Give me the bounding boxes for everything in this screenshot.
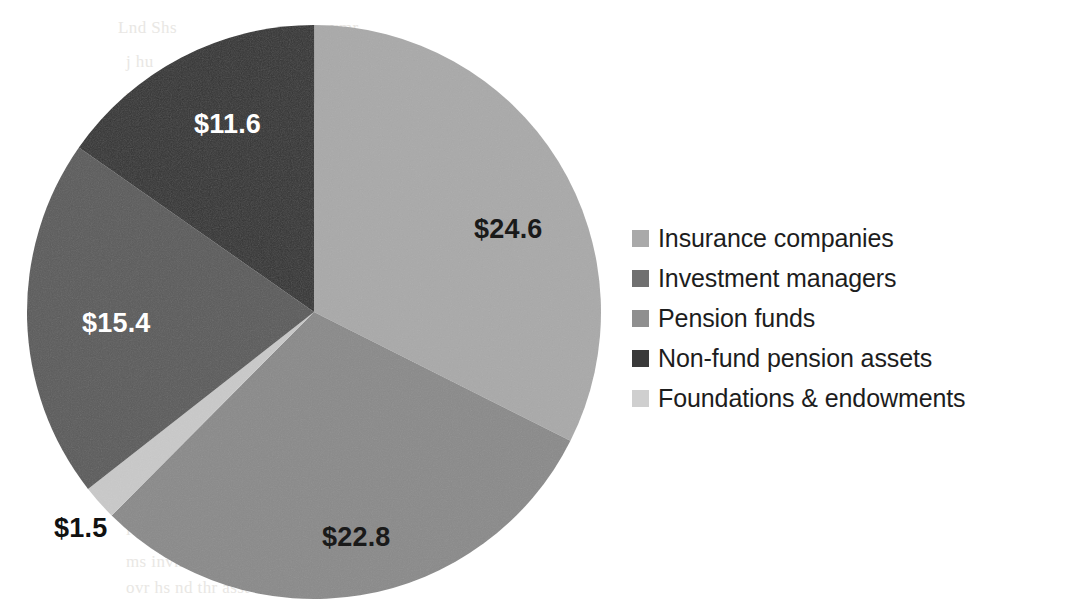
legend-swatch-icon [632,310,649,327]
slice-data-label-investment-managers: $22.8 [322,522,391,553]
legend-item-label: Investment managers [658,266,897,291]
legend-item-pension-funds[interactable]: Pension funds [632,298,966,338]
legend-swatch-icon [632,350,649,367]
slice-data-label-non-fund-pension-assets: $11.6 [194,109,261,140]
legend-swatch-icon [632,230,649,247]
legend-item-foundations-endowments[interactable]: Foundations & endowments [632,378,966,418]
slice-data-label-pension-funds: $15.4 [82,308,151,339]
legend-swatch-icon [632,390,649,407]
legend-item-label: Pension funds [658,306,815,331]
chart-legend: Insurance companies Investment managers … [632,218,966,418]
legend-item-label: Foundations & endowments [658,386,966,411]
legend-item-investment-managers[interactable]: Investment managers [632,258,966,298]
pie-chart-figure: Lnd Shs ymr j hu mlv ic aty ms invntm ov… [0,0,1072,602]
legend-swatch-icon [632,270,649,287]
slice-data-label-insurance-companies: $24.6 [474,214,543,245]
legend-item-label: Insurance companies [658,226,894,251]
legend-item-label: Non-fund pension assets [658,346,932,371]
slice-data-label-foundations-endowments: $1.5 [54,513,107,544]
pie-plot-area: $24.6 $22.8 $15.4 $11.6 $1.5 [26,24,602,600]
legend-item-non-fund-pension-assets[interactable]: Non-fund pension assets [632,338,966,378]
legend-item-insurance-companies[interactable]: Insurance companies [632,218,966,258]
